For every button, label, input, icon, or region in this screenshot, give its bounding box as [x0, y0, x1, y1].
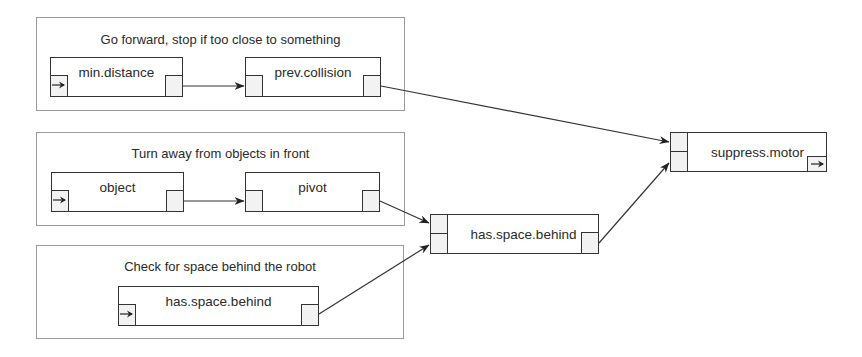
edge-has-space-behind-to-suppress-motor	[599, 163, 669, 243]
connection-wires	[0, 0, 862, 357]
edge-pivot-to-has-space-behind	[380, 201, 429, 223]
edge-inner-to-has-space-behind	[319, 245, 429, 314]
edge-prev-collision-to-suppress-motor	[381, 86, 669, 142]
